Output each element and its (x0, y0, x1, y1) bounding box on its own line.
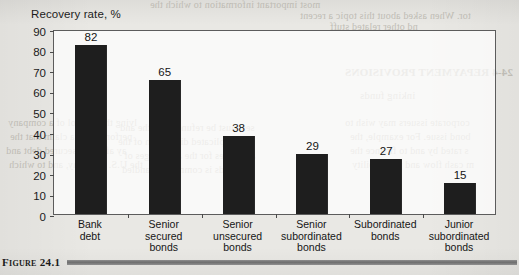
y-axis-tick: 30 (33, 145, 54, 163)
bar[interactable] (75, 45, 107, 214)
y-axis-title: Recovery rate, % (31, 8, 121, 20)
x-axis-tick-mark (276, 214, 277, 218)
x-axis-category-label: Bankdebt (53, 219, 127, 242)
x-axis-category-label: Seniorsubordinatedbonds (275, 219, 349, 254)
bar-slot: 29 (276, 31, 350, 214)
x-axis-tick-mark (128, 214, 129, 218)
figure-label: Figure 24.1 (2, 256, 60, 268)
y-axis-tick-label: 0 (40, 211, 46, 223)
y-axis-tick-label: 10 (33, 190, 46, 202)
category-label-line: bonds (275, 242, 349, 254)
bar-slot: 27 (349, 31, 423, 214)
y-axis-tick-label: 60 (33, 87, 46, 99)
y-axis-tick-label: 70 (33, 67, 46, 79)
category-label-line: Subordinated (348, 219, 422, 231)
bar-slot: 65 (128, 31, 202, 214)
bar[interactable] (149, 80, 181, 214)
y-axis-tick: 60 (33, 84, 54, 102)
category-label-line: bonds (422, 242, 496, 254)
y-axis-tick: 50 (33, 104, 54, 122)
category-label-line: debt (53, 231, 127, 243)
x-axis-category-label: Subordinatedbonds (348, 219, 422, 242)
bar-chart-plot-area: 826538292715 (54, 31, 495, 214)
y-axis-tick: 0 (40, 207, 54, 225)
bar[interactable] (444, 183, 476, 214)
category-label-line: Senior (275, 219, 349, 231)
y-axis-tick: 10 (33, 186, 54, 204)
x-axis-tick-mark (202, 214, 203, 218)
y-axis-tick: 70 (33, 63, 54, 81)
chart-plot-frame: 9080706050403020100 826538292715 (53, 30, 496, 215)
y-axis-tick-label: 90 (33, 26, 46, 38)
y-axis-tick: 40 (33, 125, 54, 143)
y-axis-tick: 20 (33, 166, 54, 184)
category-label-line: bonds (201, 242, 275, 254)
x-axis-tick-mark (349, 214, 350, 218)
y-axis-tick: 80 (33, 43, 54, 61)
category-label-line: Junior (422, 219, 496, 231)
y-axis-tick: 90 (33, 22, 54, 40)
x-axis-category-label: Juniorsubordinatedbonds (422, 219, 496, 254)
bar-value-label: 29 (306, 140, 319, 152)
y-axis-tick-label: 80 (33, 46, 46, 58)
x-axis-tick-mark (423, 214, 424, 218)
figure-rule (67, 260, 517, 265)
bar-value-label: 38 (232, 122, 245, 134)
bar[interactable] (296, 154, 328, 214)
category-label-line: Senior (127, 219, 201, 231)
bar-value-label: 82 (85, 31, 98, 43)
y-axis-tick-label: 40 (33, 129, 46, 141)
y-axis-tick-mark (50, 216, 54, 217)
bar-value-label: 27 (380, 145, 393, 157)
y-axis-tick-label: 30 (33, 149, 46, 161)
figure-caption: Figure 24.1 (2, 256, 519, 268)
x-axis-category-label: Seniorsecuredbonds (127, 219, 201, 254)
bar-value-label: 15 (454, 169, 467, 181)
bar-value-label: 65 (158, 66, 171, 78)
category-label-line: bonds (348, 231, 422, 243)
bar[interactable] (223, 136, 255, 214)
category-label-line: Bank (53, 219, 127, 231)
bar-slot: 38 (202, 31, 276, 214)
bar-slot: 15 (423, 31, 497, 214)
y-axis-tick-label: 20 (33, 170, 46, 182)
bar-slot: 82 (54, 31, 128, 214)
category-label-line: bonds (127, 242, 201, 254)
bar[interactable] (370, 159, 402, 215)
category-label-line: Senior (201, 219, 275, 231)
y-axis-tick-label: 50 (33, 108, 46, 120)
x-axis-category-label: Seniorunsecuredbonds (201, 219, 275, 254)
